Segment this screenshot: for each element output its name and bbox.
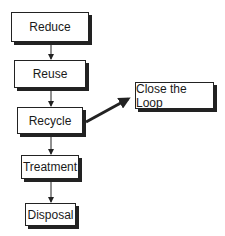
node-treatment: Treatment: [21, 155, 79, 179]
node-close-the-loop: Close the Loop: [135, 82, 214, 109]
arrow-recycle-to-close-loop: [86, 99, 128, 122]
node-recycle: Recycle: [17, 107, 83, 134]
node-reuse: Reuse: [14, 60, 86, 88]
node-reduce: Reduce: [11, 12, 89, 42]
node-disposal: Disposal: [25, 203, 76, 226]
